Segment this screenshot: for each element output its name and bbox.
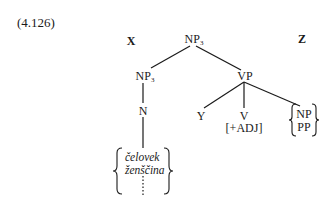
option-pp: PP [297, 121, 310, 133]
node-n: N [139, 105, 148, 117]
right-brace-icon [312, 104, 319, 136]
tree-branches [0, 0, 335, 201]
right-context-z: Z [298, 33, 306, 45]
option-np: NP [296, 108, 311, 120]
node-subscript: 3 [151, 76, 155, 84]
noun-option-chelovek: čelovek [125, 151, 159, 163]
node-y: Y [197, 110, 206, 122]
node-root-np: NP3 [185, 33, 204, 49]
left-brace-icon [289, 104, 296, 136]
left-brace-icon [113, 148, 122, 194]
node-label: NP [136, 69, 151, 83]
example-number: (4.126) [17, 17, 55, 29]
branch-vp-to-y [204, 82, 244, 108]
node-label: NP [185, 32, 200, 46]
left-context-x: X [127, 35, 136, 47]
node-subscript: 3 [200, 39, 204, 47]
node-vp: VP [237, 70, 252, 82]
branch-root-to-vp [196, 46, 241, 70]
node-np: NP3 [136, 70, 155, 86]
noun-option-zhenshchina: ženščina [125, 164, 165, 176]
branch-root-to-np [151, 46, 190, 68]
node-v-feature: [+ADJ] [226, 122, 263, 134]
right-brace-icon [164, 148, 173, 194]
branch-vp-to-np-pp [244, 82, 300, 106]
